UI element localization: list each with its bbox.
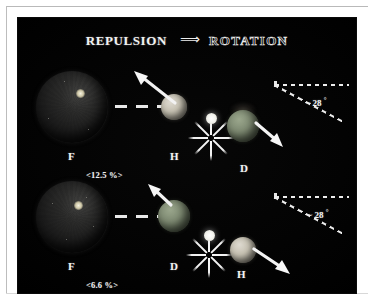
burst-ray <box>210 141 212 161</box>
angle-label-lower: ~ 28 ° <box>308 208 329 220</box>
planet-speck <box>48 118 49 119</box>
sphere-h-upper <box>161 94 187 120</box>
burst-ray <box>208 258 210 278</box>
burst-ray <box>210 256 226 272</box>
planet-f-lower <box>36 181 108 253</box>
label-f-lower: F <box>68 260 75 272</box>
planet-speck <box>64 81 65 82</box>
label-h-upper: H <box>170 150 179 162</box>
planet-speck <box>86 197 87 198</box>
planet-speck <box>66 239 67 240</box>
burst-ray <box>212 139 228 155</box>
burst-ray <box>210 238 226 254</box>
burst-core-icon <box>204 230 215 241</box>
page-rule-top <box>6 6 368 7</box>
burst-ray <box>194 139 210 155</box>
planet-speck <box>93 226 94 227</box>
planet-hotspot-icon <box>76 89 85 98</box>
burst-ray <box>212 121 228 137</box>
burst-ray <box>192 256 208 272</box>
burst-ray <box>188 137 208 139</box>
angle-unit: ° <box>324 96 327 104</box>
percent-label-lower: <6.6 %> <box>86 280 118 290</box>
angle-tilde: ~ <box>306 99 310 108</box>
star-burst-upper <box>188 95 234 141</box>
label-h-lower: H <box>237 268 246 280</box>
page-rule-left <box>6 6 7 294</box>
angle-baseline <box>275 84 349 86</box>
sphere-d-upper <box>227 110 259 142</box>
angle-label-upper: ~ 28 ° <box>306 96 327 108</box>
figure-title: REPULSION⟹ROTATION <box>18 31 356 49</box>
planet-f-upper <box>36 71 108 143</box>
figure-panel: REPULSION⟹ROTATION F H <box>18 18 356 293</box>
angle-value: 28 <box>315 210 324 220</box>
arrow-rotation-lower <box>252 246 294 278</box>
diagram-row-lower: F D <box>18 168 356 283</box>
planet-speck <box>88 129 89 130</box>
double-arrow-icon: ⟹ <box>180 31 200 47</box>
burst-ray <box>186 254 206 256</box>
planet-speck <box>52 203 53 204</box>
burst-ray <box>212 254 232 256</box>
angle-unit: ° <box>326 208 329 216</box>
star-burst-lower <box>186 212 232 258</box>
burst-ray <box>192 238 208 254</box>
label-d-lower: D <box>170 260 178 272</box>
burst-ray <box>194 121 210 137</box>
figure-page: REPULSION⟹ROTATION F H <box>0 0 374 307</box>
angle-value: 28 <box>313 98 322 108</box>
title-repulsion: REPULSION <box>86 33 167 49</box>
burst-core-icon <box>206 113 217 124</box>
diagram-row-upper: F H <box>18 58 356 173</box>
planet-hotspot-icon <box>74 201 83 210</box>
angle-baseline <box>275 196 349 198</box>
label-f-upper: F <box>68 150 75 162</box>
angle-tilde: ~ <box>308 211 312 220</box>
sphere-h-lower <box>230 237 256 263</box>
page-rule-bottom <box>6 293 368 294</box>
title-rotation: ROTATION <box>209 33 288 49</box>
